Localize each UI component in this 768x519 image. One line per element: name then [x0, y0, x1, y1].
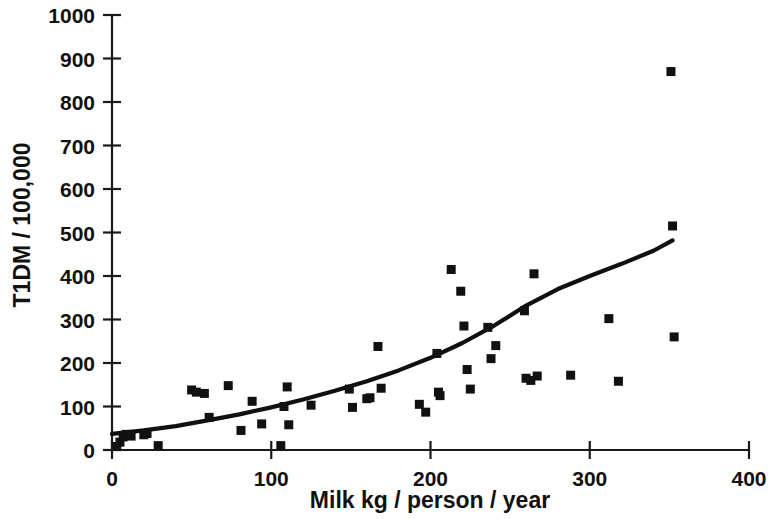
y-axis-title: T1DM / 100,000 — [9, 143, 35, 308]
data-point — [205, 413, 214, 422]
data-point — [421, 408, 430, 417]
data-point — [192, 388, 201, 397]
data-point — [566, 371, 575, 380]
data-point — [154, 441, 163, 450]
data-point — [236, 426, 245, 435]
y-tick-label: 600 — [60, 178, 95, 201]
axes-group — [112, 15, 749, 450]
data-point — [348, 403, 357, 412]
y-tick-label: 300 — [60, 309, 95, 332]
x-tick-label: 100 — [254, 467, 289, 490]
data-points-group — [112, 67, 678, 451]
data-point — [459, 322, 468, 331]
data-point — [248, 397, 257, 406]
y-tick-label: 200 — [60, 352, 95, 375]
data-point — [614, 377, 623, 386]
data-point — [307, 401, 316, 410]
data-point — [666, 67, 675, 76]
x-tick-label: 300 — [572, 467, 607, 490]
data-point — [345, 385, 354, 394]
data-point — [373, 342, 382, 351]
y-tick-label: 500 — [60, 222, 95, 245]
y-tick-label: 1000 — [48, 4, 95, 27]
y-tick-label: 800 — [60, 91, 95, 114]
y-tick-labels: 01002003004005006007008009001000 — [48, 4, 95, 462]
data-point — [483, 323, 492, 332]
data-point — [283, 382, 292, 391]
data-point — [533, 372, 542, 381]
data-point — [143, 429, 152, 438]
y-tick-label: 900 — [60, 48, 95, 71]
data-point — [670, 332, 679, 341]
data-point — [377, 384, 386, 393]
data-point — [200, 389, 209, 398]
data-point — [447, 265, 456, 274]
data-point — [466, 385, 475, 394]
data-point — [436, 391, 445, 400]
data-point — [365, 393, 374, 402]
data-point — [279, 402, 288, 411]
y-tick-label: 0 — [83, 439, 95, 462]
data-point — [491, 341, 500, 350]
data-point — [415, 400, 424, 409]
y-tick-label: 700 — [60, 135, 95, 158]
data-point — [668, 221, 677, 230]
data-point — [127, 432, 136, 441]
data-point — [432, 349, 441, 358]
data-point — [520, 306, 529, 315]
data-point — [530, 269, 539, 278]
data-point — [456, 287, 465, 296]
data-point — [224, 381, 233, 390]
y-tick-label: 100 — [60, 396, 95, 419]
scatter-plot: 01002003004005006007008009001000 0100200… — [0, 0, 768, 519]
fit-curve — [112, 240, 673, 434]
x-tick-label: 0 — [106, 467, 118, 490]
data-point — [463, 365, 472, 374]
trend-line — [112, 240, 673, 434]
data-point — [257, 419, 266, 428]
chart-figure: 01002003004005006007008009001000 0100200… — [0, 0, 768, 519]
data-point — [604, 314, 613, 323]
data-point — [487, 354, 496, 363]
x-tick-label: 400 — [731, 467, 766, 490]
data-point — [276, 441, 285, 450]
data-point — [284, 420, 293, 429]
y-tick-label: 400 — [60, 265, 95, 288]
x-axis-title: Milk kg / person / year — [310, 487, 550, 513]
